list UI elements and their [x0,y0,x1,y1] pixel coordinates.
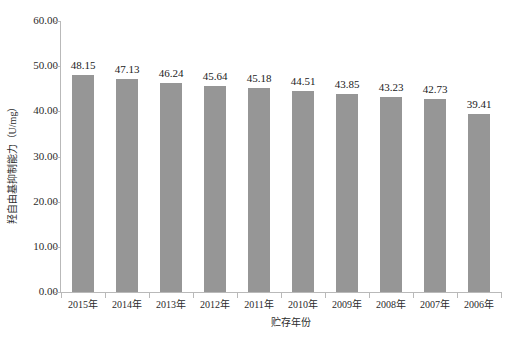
y-axis-tick-mark [54,292,60,293]
bar-value-label: 43.23 [367,82,415,93]
bar [116,79,138,292]
plot-area [61,21,501,292]
x-axis-tick-label: 2008年 [366,299,416,311]
y-axis-tick-mark [54,247,60,248]
x-axis-tick-label: 2013年 [146,299,196,311]
bar [380,97,402,292]
bar [72,75,94,292]
bar-value-label: 42.73 [411,84,459,95]
x-axis-tick-mark [237,292,238,298]
x-axis-tick-label: 2007年 [410,299,460,311]
bar [160,83,182,292]
x-axis-tick-label: 2015年 [58,299,108,311]
x-axis-tick-label: 2009年 [322,299,372,311]
y-axis-tick-mark [54,157,60,158]
x-axis-tick-label: 2012年 [190,299,240,311]
bar [424,99,446,292]
y-axis-tick-mark [54,202,60,203]
x-axis-tick-mark [369,292,370,298]
bar [336,94,358,292]
y-axis-tick-mark [54,111,60,112]
x-axis-tick-mark [193,292,194,298]
x-axis-tick-mark [501,292,502,298]
bar-value-label: 46.24 [147,68,195,79]
bar-value-label: 48.15 [59,60,107,71]
bar [292,91,314,292]
bar-value-label: 45.18 [235,73,283,84]
y-axis-tick-label: 0.00 [12,286,58,297]
x-axis-title-text: 贮存年份 [271,317,311,328]
bar-value-label: 39.41 [455,99,503,110]
y-axis-tick-label: 20.00 [12,196,58,207]
y-axis-tick-label: 60.00 [12,15,58,26]
y-axis-tick-labels: 0.0010.0020.0030.0040.0050.0060.00 [12,0,58,338]
y-axis-tick-label: 30.00 [12,151,58,162]
x-axis-tick-mark [281,292,282,298]
x-axis-tick-label: 2011年 [234,299,284,311]
y-axis-tick-label: 40.00 [12,105,58,116]
bar-value-label: 43.85 [323,79,371,90]
x-axis-tick-mark [457,292,458,298]
bar-chart: 羟自由基抑制能力（U/mg） 0.0010.0020.0030.0040.005… [0,0,518,338]
y-axis-tick-mark [54,21,60,22]
x-axis-tick-mark [325,292,326,298]
bar-value-label: 44.51 [279,76,327,87]
x-axis-tick-label: 2010年 [278,299,328,311]
x-axis-tick-mark [105,292,106,298]
bar [468,114,490,292]
x-axis-tick-mark [61,292,62,298]
x-axis-tick-label: 2014年 [102,299,152,311]
x-axis-title: 贮存年份 [0,317,518,329]
bar-value-label: 45.64 [191,71,239,82]
y-axis-tick-label: 10.00 [12,241,58,252]
bar-value-label: 47.13 [103,64,151,75]
x-axis-tick-label: 2006年 [454,299,504,311]
x-axis-tick-mark [413,292,414,298]
bar [248,88,270,292]
bar [204,86,226,292]
y-axis-tick-label: 50.00 [12,60,58,71]
x-axis-line [54,292,502,293]
x-axis-tick-mark [149,292,150,298]
